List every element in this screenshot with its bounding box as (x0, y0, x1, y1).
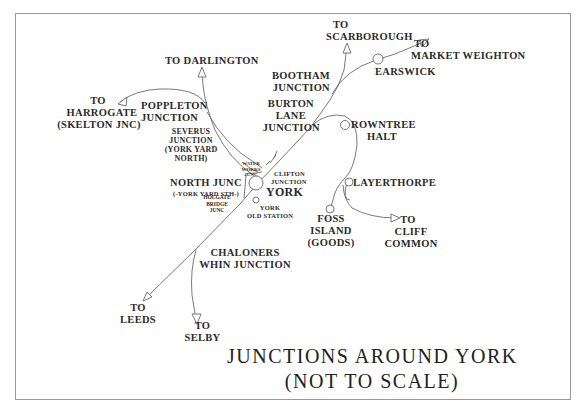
label-to-darlington: TO DARLINGTON (165, 55, 259, 67)
map-title: JUNCTIONS AROUND YORK (NOT TO SCALE) (227, 344, 517, 394)
label-to-harrogate: TO HARROGATE (SKELTON JNC) (62, 95, 148, 131)
label-to: TO (411, 38, 525, 50)
label-poppleton-junction: POPPLETON JUNCTION (141, 100, 208, 124)
label-severus-junction: SEVERUS JUNCTION (YORK YARD NORTH) (160, 127, 222, 163)
title-line-2: (NOT TO SCALE) (227, 369, 517, 394)
label-york-old-station: YORK OLD STATION (245, 204, 295, 219)
label-bootham-junction: BOOTHAM JUNCTION (258, 70, 330, 94)
rowntree-halt-marker (341, 121, 350, 130)
label-leeds: LEEDS (118, 314, 158, 326)
label-foss-island-goods: FOSS ISLAND (GOODS) (305, 213, 357, 249)
label-rowntree-halt: ROWNTREE HALT (351, 119, 413, 143)
label-burton-lane-junction: BURTON LANE JUNCTION (255, 98, 320, 134)
layerthorpe-marker (345, 178, 353, 186)
label-harrogate: HARROGATE (56, 107, 148, 119)
earswick-station-marker (373, 54, 383, 64)
label-to-scarborough: TO SCARBOROUGH (326, 19, 406, 43)
york-old-station-marker (253, 197, 259, 203)
label-to-selby: TO SELBY (180, 320, 225, 344)
label-earswick: EARSWICK (375, 66, 436, 78)
arrow-darlington-icon (198, 67, 206, 77)
label-selby: SELBY (180, 332, 225, 344)
label-cliff: CLIFF (381, 226, 441, 238)
label-skelton-jnc: (SKELTON JNC) (50, 119, 148, 131)
label-to: TO (118, 302, 158, 314)
label-common: COMMON (381, 238, 441, 250)
label-to-leeds: TO LEEDS (118, 302, 158, 326)
label-water-works-junc: WATER WORKS JUNC (238, 161, 264, 178)
label-clifton-junction: CLIFTON JUNCTION (271, 170, 307, 185)
label-holgate-bridge-junc: HOLGATE BRIDGE JUNC (202, 194, 232, 214)
title-line-1: JUNCTIONS AROUND YORK (227, 344, 517, 369)
label-to-cliff-common: TO CLIFF COMMON (381, 214, 441, 250)
arrow-scarborough-icon (343, 43, 351, 53)
label-chaloners-whin-junction: CHALONERS WHIN JUNCTION (196, 247, 294, 271)
foss-island-marker (326, 205, 334, 213)
label-scarborough: SCARBOROUGH (326, 31, 406, 43)
label-to: TO (180, 320, 225, 332)
label-to-market-weighton: TO MARKET WEIGHTON (411, 38, 525, 62)
label-to: TO (326, 19, 406, 31)
label-york: YORK (266, 186, 303, 199)
label-market-weighton: MARKET WEIGHTON (411, 50, 525, 62)
york-station-marker (249, 176, 263, 190)
label-to: TO (375, 214, 441, 226)
label-to: TO (48, 95, 148, 107)
label-layerthorpe: LAYERTHORPE (353, 177, 436, 189)
